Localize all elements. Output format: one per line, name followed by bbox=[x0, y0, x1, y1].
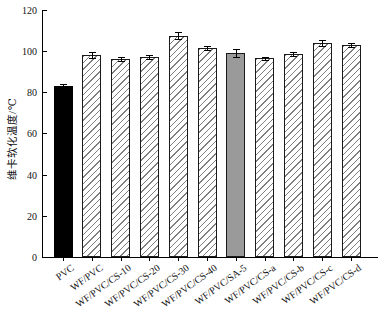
y-tick-mark bbox=[43, 175, 47, 176]
y-tick-mark bbox=[43, 133, 47, 134]
error-bar-cap-bottom bbox=[118, 61, 125, 62]
error-bar-cap-top bbox=[290, 52, 297, 53]
x-tick-mark bbox=[322, 258, 323, 261]
error-bar-cap-bottom bbox=[89, 58, 96, 59]
error-bar-cap-bottom bbox=[262, 60, 269, 61]
y-tick-mark bbox=[43, 216, 47, 217]
error-bar-cap-bottom bbox=[175, 39, 182, 40]
error-bar-cap-bottom bbox=[233, 57, 240, 58]
x-tick-mark bbox=[293, 258, 294, 261]
error-bar-cap-bottom bbox=[60, 88, 67, 89]
error-bar-cap-bottom bbox=[146, 59, 153, 60]
bar-wf-pvc-cs-b bbox=[284, 54, 303, 257]
x-tick-mark bbox=[149, 258, 150, 261]
y-tick-mark bbox=[43, 92, 47, 93]
x-tick-mark bbox=[63, 258, 64, 261]
error-bar-line bbox=[236, 49, 237, 57]
bar-wf-pvc-cs-20 bbox=[140, 57, 159, 257]
x-tick-mark bbox=[236, 258, 237, 261]
error-bar-cap-bottom bbox=[348, 47, 355, 48]
y-tick-label: 40 bbox=[0, 170, 37, 181]
x-tick-mark bbox=[265, 258, 266, 261]
error-bar-cap-top bbox=[262, 57, 269, 58]
vicat-softening-temperature-chart: 维卡软化温度/℃ 020406080100120PVCWF/PVCWF/PVC/… bbox=[0, 0, 388, 313]
y-tick-label: 80 bbox=[0, 87, 37, 98]
x-tick-mark bbox=[351, 258, 352, 261]
error-bar-cap-top bbox=[146, 55, 153, 56]
bar-wf-pvc-cs-10 bbox=[111, 59, 130, 257]
bar-wf-pvc-cs-d bbox=[342, 45, 361, 257]
bar-wf-pvc-cs-40 bbox=[198, 48, 217, 257]
error-bar-cap-top bbox=[60, 84, 67, 85]
error-bar-cap-top bbox=[319, 40, 326, 41]
y-tick-label: 0 bbox=[0, 252, 37, 263]
error-bar-cap-top bbox=[204, 46, 211, 47]
y-tick-label: 120 bbox=[0, 5, 37, 16]
error-bar-cap-top bbox=[175, 32, 182, 33]
y-tick-label: 60 bbox=[0, 128, 37, 139]
x-tick-mark bbox=[178, 258, 179, 261]
x-tick-label-wf-pvc-cs-d: WF/PVC/CS-d bbox=[308, 262, 363, 307]
x-tick-mark bbox=[207, 258, 208, 261]
bar-wf-pvc-cs-a bbox=[255, 58, 274, 257]
x-tick-mark bbox=[121, 258, 122, 261]
bar-wf-pvc-cs-30 bbox=[169, 36, 188, 257]
bar-pvc bbox=[54, 86, 73, 257]
error-bar-cap-top bbox=[89, 52, 96, 53]
bar-wf-pvc-sa-5 bbox=[226, 53, 245, 257]
y-tick-mark bbox=[43, 10, 47, 11]
y-tick-mark bbox=[43, 257, 47, 258]
error-bar-cap-top bbox=[348, 43, 355, 44]
error-bar-cap-bottom bbox=[319, 46, 326, 47]
y-tick-mark bbox=[43, 51, 47, 52]
y-tick-label: 20 bbox=[0, 211, 37, 222]
y-tick-label: 100 bbox=[0, 46, 37, 57]
error-bar-cap-top bbox=[118, 57, 125, 58]
error-bar-cap-bottom bbox=[290, 56, 297, 57]
bar-wf-pvc bbox=[82, 55, 101, 257]
bar-wf-pvc-cs-c bbox=[313, 43, 332, 257]
error-bar-cap-top bbox=[233, 49, 240, 50]
x-tick-mark bbox=[92, 258, 93, 261]
error-bar-cap-bottom bbox=[204, 50, 211, 51]
